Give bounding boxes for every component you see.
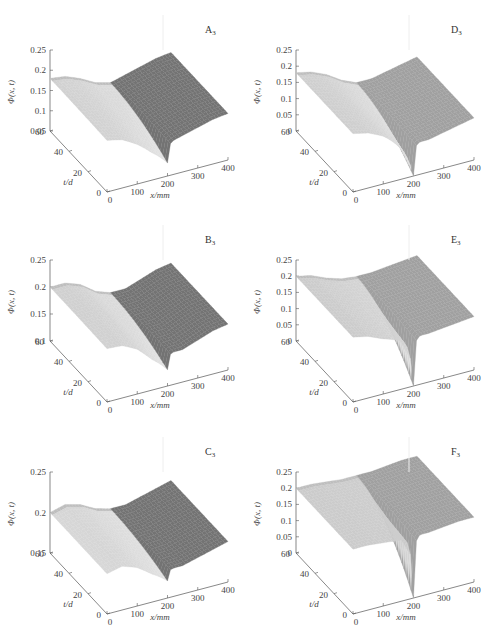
- panel-label: E3: [451, 234, 461, 247]
- x-tick-label: 200: [407, 389, 421, 399]
- panel-label: D3: [451, 24, 462, 37]
- panel-label-subscript: 3: [212, 29, 216, 37]
- panel-label: C3: [205, 446, 216, 459]
- x-tick-label: 400: [221, 373, 235, 383]
- surface-chart-e3: 0.250.20.150.10.05002040600100200300400Φ…: [246, 210, 492, 423]
- z-tick-label: 0.15: [30, 309, 46, 319]
- t-axis-title: t/d: [63, 599, 73, 609]
- panel-label: B3: [205, 234, 216, 247]
- z-tick-label: 0.15: [276, 77, 292, 87]
- x-axis-title: x/mm: [149, 612, 170, 622]
- t-tick-label: 60: [281, 549, 291, 559]
- t-tick: [69, 360, 72, 361]
- surface-chart-d3: 0.250.20.150.10.05002040600100200300400Φ…: [246, 0, 492, 213]
- t-tick-label: 0: [343, 398, 348, 408]
- t-axis: [50, 341, 107, 402]
- panel-label-subscript: 3: [458, 29, 462, 37]
- z-tick-label: 0.2: [35, 65, 46, 75]
- panel-label-subscript: 3: [457, 451, 461, 459]
- x-tick-label: 200: [161, 179, 175, 189]
- z-tick-label: 0.25: [276, 467, 292, 477]
- t-axis: [50, 131, 107, 192]
- z-tick-label: 0.2: [281, 483, 292, 493]
- t-axis-title: t/d: [309, 599, 319, 609]
- t-tick-label: 20: [319, 168, 329, 178]
- z-axis-title: Φ(x, t): [6, 290, 16, 314]
- x-axis-title: x/mm: [395, 612, 416, 622]
- t-axis-title: t/d: [63, 387, 73, 397]
- t-tick: [315, 150, 318, 151]
- z-tick-label: 0.25: [30, 255, 46, 265]
- t-axis-title: t/d: [309, 177, 319, 187]
- z-axis-title: Φ(x, t): [6, 502, 16, 526]
- x-tick-label: 100: [377, 187, 391, 197]
- t-tick-label: 0: [97, 398, 102, 408]
- x-tick-label: 200: [407, 601, 421, 611]
- t-tick: [88, 171, 91, 172]
- x-tick-label: 400: [221, 163, 235, 173]
- panel-d3: 0.250.20.150.10.05002040600100200300400Φ…: [246, 0, 492, 213]
- z-tick-label: 0.25: [30, 45, 46, 55]
- t-tick-label: 60: [281, 127, 291, 137]
- t-tick-label: 0: [97, 610, 102, 620]
- t-axis: [296, 131, 353, 192]
- t-tick-label: 20: [73, 378, 83, 388]
- surface-chart-a3: 0.250.20.150.10.0502040600100200300400Φ(…: [0, 0, 246, 213]
- x-tick-label: 300: [437, 593, 451, 603]
- t-tick-label: 20: [73, 590, 83, 600]
- t-tick-label: 60: [35, 127, 45, 137]
- z-tick-label: 0.2: [281, 271, 292, 281]
- x-tick-label: 300: [437, 381, 451, 391]
- t-tick-label: 40: [54, 147, 64, 157]
- x-tick-label: 0: [354, 195, 359, 205]
- x-tick-label: 0: [108, 617, 113, 627]
- t-tick-label: 60: [35, 549, 45, 559]
- t-tick-label: 0: [343, 610, 348, 620]
- x-tick-label: 100: [131, 187, 145, 197]
- t-axis: [296, 341, 353, 402]
- panel-b3: 0.250.20.150.102040600100200300400Φ(x, t…: [0, 210, 246, 423]
- x-tick-label: 300: [191, 381, 205, 391]
- panel-label: A3: [205, 24, 216, 37]
- z-tick-label: 0.2: [35, 282, 46, 292]
- t-tick: [315, 572, 318, 573]
- z-tick-label: 0.1: [281, 516, 292, 526]
- z-axis-title: Φ(x, t): [6, 80, 16, 104]
- surface-chart-b3: 0.250.20.150.102040600100200300400Φ(x, t…: [0, 210, 246, 423]
- x-tick-label: 0: [354, 617, 359, 627]
- t-tick-label: 0: [343, 188, 348, 198]
- panel-label-subscript: 3: [457, 239, 461, 247]
- panel-label-subscript: 3: [212, 451, 216, 459]
- z-tick-label: 0.25: [30, 467, 46, 477]
- t-tick: [88, 381, 91, 382]
- x-tick-label: 100: [131, 609, 145, 619]
- x-tick-label: 300: [191, 593, 205, 603]
- x-tick-label: 400: [221, 585, 235, 595]
- z-tick-label: 0.25: [276, 255, 292, 265]
- z-axis-title: Φ(x, t): [252, 502, 262, 526]
- panel-f3: 0.250.20.150.10.05002040600100200300400Φ…: [246, 422, 492, 635]
- t-tick-label: 40: [54, 569, 64, 579]
- t-tick-label: 40: [300, 147, 310, 157]
- z-axis-title: Φ(x, t): [252, 80, 262, 104]
- t-tick-label: 0: [97, 188, 102, 198]
- x-tick-label: 400: [467, 163, 481, 173]
- z-tick-label: 0.25: [276, 45, 292, 55]
- t-tick: [88, 593, 91, 594]
- t-tick-label: 20: [319, 590, 329, 600]
- x-tick-label: 400: [467, 585, 481, 595]
- z-tick-label: 0.1: [281, 304, 292, 314]
- x-tick-label: 400: [467, 373, 481, 383]
- z-tick-label: 0.05: [276, 320, 292, 330]
- x-tick-label: 100: [131, 397, 145, 407]
- panel-label: F3: [451, 446, 461, 459]
- x-tick-label: 200: [407, 179, 421, 189]
- t-tick: [334, 593, 337, 594]
- t-axis-title: t/d: [63, 177, 73, 187]
- z-tick-label: 0.15: [30, 86, 46, 96]
- t-tick-label: 20: [73, 168, 83, 178]
- z-tick-label: 0.1: [35, 106, 46, 116]
- z-tick-label: 0.2: [35, 508, 46, 518]
- x-axis-title: x/mm: [149, 400, 170, 410]
- x-axis-title: x/mm: [149, 190, 170, 200]
